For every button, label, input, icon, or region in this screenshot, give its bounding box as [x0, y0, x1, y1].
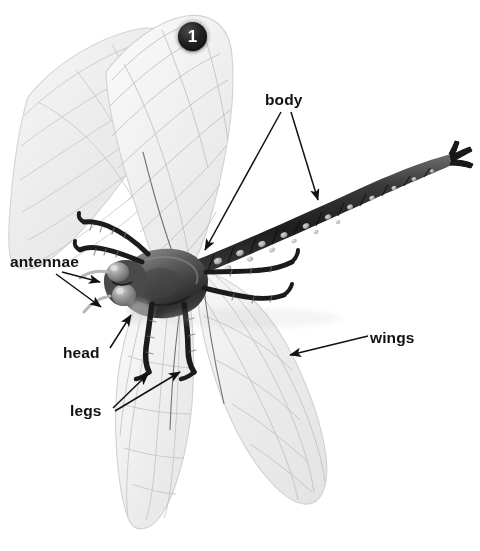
- arrow-wings: [290, 336, 368, 355]
- arrow-head: [110, 315, 131, 348]
- arrow-legs-left: [113, 374, 148, 408]
- number-badge: 1: [178, 22, 207, 51]
- label-antennae: antennae: [10, 254, 79, 270]
- arrow-legs-right: [115, 372, 180, 411]
- arrow-body-to-thorax: [205, 112, 281, 250]
- label-legs: legs: [70, 403, 101, 419]
- arrow-body-to-abdomen: [291, 112, 318, 200]
- dragonfly-anatomy-figure: 1 body antennae head legs wings: [0, 0, 480, 551]
- label-body: body: [265, 92, 302, 108]
- label-wings: wings: [370, 330, 414, 346]
- arrow-antennae-upper: [62, 272, 100, 282]
- arrow-antennae-lower: [56, 274, 101, 307]
- label-head: head: [63, 345, 100, 361]
- callout-arrows: [0, 0, 480, 551]
